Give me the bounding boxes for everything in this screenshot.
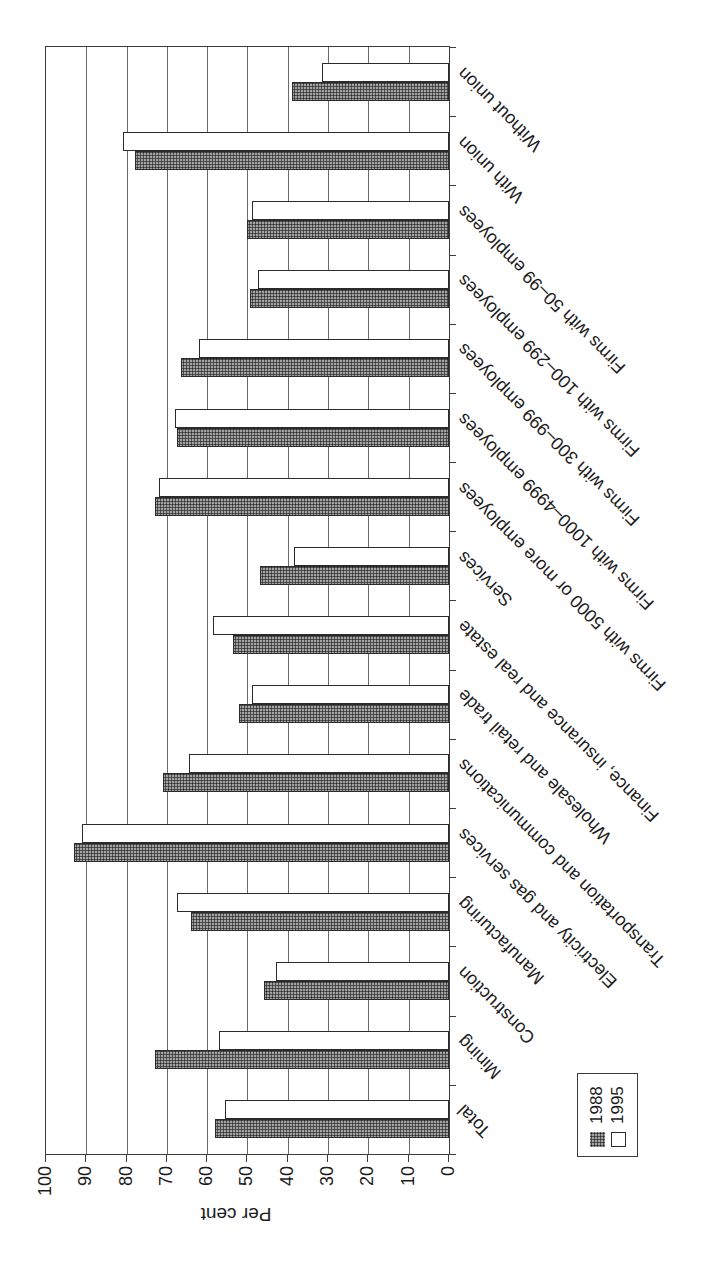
bar-1988-15 — [292, 82, 449, 101]
category-axis-tick-13 — [449, 255, 456, 256]
y-tick-label-20: 20 — [357, 1166, 377, 1186]
gridline-60 — [207, 47, 208, 1154]
bar-1995-7 — [213, 616, 449, 635]
bar-1988-8 — [260, 566, 449, 585]
category-label-8: Services — [454, 547, 516, 609]
bar-1988-6 — [239, 704, 449, 723]
gridline-90 — [86, 47, 87, 1154]
legend: 19881995 — [577, 1073, 638, 1157]
y-tick-label-100: 100 — [35, 1166, 55, 1196]
bar-1995-10 — [175, 409, 449, 428]
category-label-1: Mining — [454, 1032, 505, 1083]
scanned-chart-page: Per cent 19881995 0102030405060708090100… — [0, 0, 720, 1272]
category-axis-tick-0 — [449, 1154, 456, 1155]
category-axis-tick-12 — [449, 324, 456, 325]
bar-1988-7 — [233, 635, 449, 654]
y-axis-title: Per cent — [186, 1204, 286, 1224]
bar-1995-14 — [123, 132, 449, 151]
value-axis-tick-10 — [408, 1155, 409, 1162]
y-tick-label-40: 40 — [277, 1166, 297, 1186]
value-axis-tick-90 — [85, 1155, 86, 1162]
legend-label-1995: 1995 — [609, 1086, 627, 1124]
y-tick-label-80: 80 — [116, 1166, 136, 1186]
y-tick-label-10: 10 — [398, 1166, 418, 1186]
bar-1995-4 — [82, 824, 449, 843]
category-label-0: Total — [454, 1101, 494, 1141]
bar-1988-2 — [264, 981, 449, 1000]
category-axis-tick-1 — [449, 1085, 456, 1086]
gridline-80 — [127, 47, 128, 1154]
category-axis-tick-3 — [449, 946, 456, 947]
category-axis-tick-15 — [449, 116, 456, 117]
legend-swatch-1988 — [590, 1132, 605, 1147]
bar-1995-3 — [177, 893, 449, 912]
bar-1988-0 — [215, 1119, 449, 1138]
legend-label-1988: 1988 — [588, 1086, 606, 1124]
y-tick-label-60: 60 — [196, 1166, 216, 1186]
y-tick-label-90: 90 — [75, 1166, 95, 1186]
category-axis-tick-6 — [449, 739, 456, 740]
bar-1988-13 — [247, 220, 449, 239]
y-tick-label-50: 50 — [236, 1166, 256, 1186]
value-axis-tick-50 — [246, 1155, 247, 1162]
value-axis-tick-100 — [45, 1155, 46, 1162]
category-axis-tick-14 — [449, 185, 456, 186]
bar-1988-3 — [191, 912, 449, 931]
plot-area — [45, 46, 450, 1155]
value-axis-tick-20 — [367, 1155, 368, 1162]
y-tick-label-70: 70 — [156, 1166, 176, 1186]
bar-1988-12 — [250, 289, 449, 308]
gridline-70 — [167, 47, 168, 1154]
bar-1995-5 — [189, 754, 449, 773]
legend-swatch-1995 — [611, 1132, 626, 1147]
value-axis-tick-30 — [327, 1155, 328, 1162]
value-axis-tick-80 — [126, 1155, 127, 1162]
legend-row-1995: 1995 — [609, 1080, 627, 1147]
value-axis-tick-0 — [448, 1155, 449, 1162]
y-tick-label-30: 30 — [317, 1166, 337, 1186]
union-coverage-bar-chart: Per cent 19881995 0102030405060708090100… — [0, 0, 720, 1272]
category-axis-tick-11 — [449, 393, 456, 394]
bar-1995-0 — [225, 1100, 449, 1119]
bar-1995-9 — [159, 478, 449, 497]
value-axis-tick-60 — [206, 1155, 207, 1162]
value-axis-tick-70 — [166, 1155, 167, 1162]
bar-1995-15 — [322, 63, 449, 82]
category-label-14: With union — [454, 132, 528, 206]
category-axis-tick-10 — [449, 462, 456, 463]
bar-1995-12 — [258, 270, 449, 289]
bar-1995-8 — [294, 547, 449, 566]
bar-1988-14 — [135, 151, 449, 170]
bar-1988-5 — [163, 773, 449, 792]
category-axis-tick-7 — [449, 670, 456, 671]
category-axis-tick-9 — [449, 531, 456, 532]
category-axis-tick-16 — [449, 47, 456, 48]
bar-1988-9 — [155, 497, 449, 516]
bar-1988-10 — [177, 428, 449, 447]
bar-1995-6 — [252, 685, 449, 704]
gridline-50 — [247, 47, 248, 1154]
bar-1988-4 — [74, 843, 449, 862]
category-axis-tick-8 — [449, 600, 456, 601]
category-axis-tick-2 — [449, 1016, 456, 1017]
bar-1995-2 — [276, 962, 449, 981]
bar-1995-1 — [219, 1031, 449, 1050]
bar-1988-11 — [181, 358, 449, 377]
legend-row-1988: 1988 — [588, 1080, 606, 1147]
y-tick-label-0: 0 — [438, 1166, 458, 1176]
value-axis-tick-40 — [287, 1155, 288, 1162]
bar-1988-1 — [155, 1050, 449, 1069]
bar-1995-13 — [252, 201, 449, 220]
bar-1995-11 — [199, 339, 449, 358]
category-axis-tick-5 — [449, 808, 456, 809]
category-axis-tick-4 — [449, 877, 456, 878]
